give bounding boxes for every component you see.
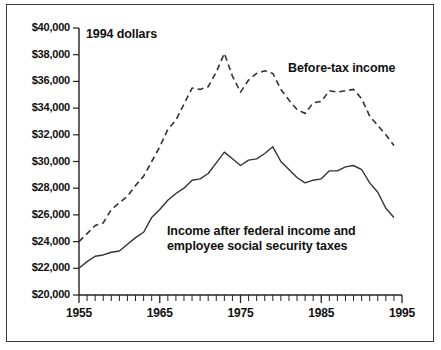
y-tick-label: $34,000	[32, 101, 70, 113]
y-tick-label: $26,000	[32, 208, 70, 220]
x-tick-marks	[79, 295, 402, 303]
y-tick-label: $22,000	[32, 261, 70, 273]
x-tick-label: 1995	[372, 306, 432, 320]
y-tick-label: $40,000	[32, 21, 70, 33]
y-tick-label: $28,000	[32, 181, 70, 193]
x-tick-label: 1985	[291, 306, 351, 320]
y-tick-label: $36,000	[32, 74, 70, 86]
annotation-after-tax-income: Income after federal income and employee…	[167, 224, 356, 254]
annotation-units: 1994 dollars	[86, 27, 157, 42]
x-tick-label: 1965	[130, 306, 190, 320]
y-tick-label: $20,000	[32, 288, 70, 300]
y-tick-label: $38,000	[32, 48, 70, 60]
annotation-before-tax-income: Before-tax income	[288, 61, 395, 76]
y-tick-label: $30,000	[32, 155, 70, 167]
x-tick-label: 1975	[211, 306, 271, 320]
y-tick-label: $24,000	[32, 235, 70, 247]
series-line-before-tax	[79, 53, 394, 241]
x-tick-label: 1955	[49, 306, 109, 320]
y-tick-marks	[73, 28, 79, 295]
y-tick-label: $32,000	[32, 128, 70, 140]
chart-figure: $20,000$22,000$24,000$26,000$28,000$30,0…	[0, 0, 441, 350]
